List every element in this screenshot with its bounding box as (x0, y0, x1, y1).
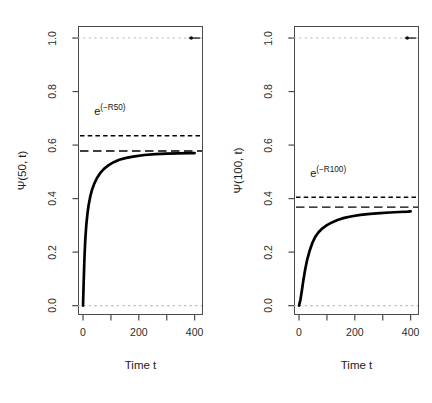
y-tick-label-1.0: 1.0 (46, 21, 57, 55)
annotation-exp-minus-R100: e(−R100) (310, 164, 346, 179)
y-tick-label-0.6: 0.6 (46, 128, 57, 162)
y-tick-label-0.4: 0.4 (262, 182, 273, 216)
x-tick-label-400: 400 (175, 327, 215, 338)
y-tick-label-0.0: 0.0 (46, 289, 57, 323)
x-axis-title-left: Time t (81, 359, 201, 372)
psi-50-curve (83, 153, 195, 306)
annotation-exponent: (−R100) (316, 165, 346, 174)
psi-100-curve (299, 211, 411, 305)
panel-psi-100: Ψ(100, t) Time t e(−R100) 0.00.20.40.60.… (216, 0, 432, 403)
y-tick-label-0.8: 0.8 (262, 75, 273, 109)
y-tick-label-0.2: 0.2 (46, 235, 57, 269)
x-tick-label-400: 400 (391, 327, 431, 338)
plot-canvas-left (0, 0, 216, 403)
y-tick-label-0.2: 0.2 (262, 235, 273, 269)
figure-two-panel-psi-plot: Ψ(50, t) Time t e(−R50) 0.00.20.40.60.81… (0, 0, 432, 403)
annotation-exp-minus-R50: e(−R50) (94, 102, 125, 117)
y-tick-label-0.4: 0.4 (46, 182, 57, 216)
annotation-exponent: (−R50) (100, 103, 125, 112)
y-axis-title-right: Ψ(100, t) (231, 115, 244, 225)
y-tick-label-1.0: 1.0 (262, 21, 273, 55)
top-right-marker-dot (406, 36, 409, 39)
top-right-marker-dot (190, 36, 193, 39)
x-tick-label-200: 200 (119, 327, 159, 338)
y-tick-label-0.6: 0.6 (262, 128, 273, 162)
x-tick-label-0: 0 (279, 327, 319, 338)
plot-canvas-right (216, 0, 432, 403)
x-tick-label-0: 0 (63, 327, 103, 338)
x-axis-title-right: Time t (297, 359, 417, 372)
y-tick-label-0.0: 0.0 (262, 289, 273, 323)
panel-psi-50: Ψ(50, t) Time t e(−R50) 0.00.20.40.60.81… (0, 0, 216, 403)
y-tick-label-0.8: 0.8 (46, 75, 57, 109)
x-tick-label-200: 200 (335, 327, 375, 338)
y-axis-title-left: Ψ(50, t) (15, 115, 28, 225)
